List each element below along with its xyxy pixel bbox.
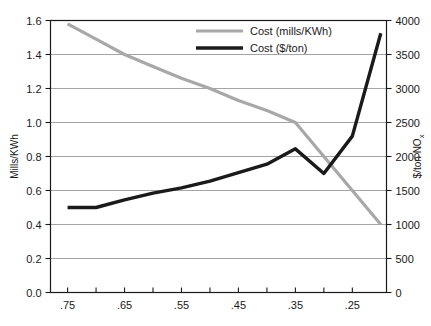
y-axis-tick-label: 1.4 — [26, 49, 41, 61]
y2-axis-tick-label: 1500 — [396, 185, 420, 197]
y-axis-tick-label: 1.0 — [26, 117, 41, 129]
chart-container: 0.00.20.40.60.81.01.21.41.60500100015002… — [0, 0, 431, 326]
series-line-1 — [68, 24, 381, 225]
series-line-2 — [68, 33, 381, 207]
y2-axis-tick-label: 1000 — [396, 219, 420, 231]
legend-label-1: Cost (mills/KWh) — [250, 25, 332, 37]
x-axis-tick-label: .55 — [174, 299, 189, 311]
y-axis-tick-label: 0.2 — [26, 253, 41, 265]
line-chart: 0.00.20.40.60.81.01.21.41.60500100015002… — [0, 0, 431, 326]
x-axis-tick-label: .45 — [231, 299, 246, 311]
x-axis-tick-label: .75 — [60, 299, 75, 311]
y-axis-tick-label: 0.4 — [26, 219, 41, 231]
y-axis-tick-label: 0.8 — [26, 151, 41, 163]
x-axis-tick-label: .25 — [345, 299, 360, 311]
y2-axis-tick-label: 3000 — [396, 83, 420, 95]
y2-axis-tick-label: 3500 — [396, 49, 420, 61]
y2-axis-tick-label: 2500 — [396, 117, 420, 129]
legend-label-2: Cost ($/ton) — [250, 42, 307, 54]
y2-axis-title: $/ton NOx — [412, 134, 426, 178]
y-axis-tick-label: 0.0 — [26, 287, 41, 299]
y-axis-tick-label: 1.2 — [26, 83, 41, 95]
y-axis-tick-label: 1.6 — [26, 15, 41, 27]
x-axis-tick-label: .65 — [117, 299, 132, 311]
y-axis-title: Mills/KWh — [9, 134, 20, 178]
x-axis-tick-label: .35 — [288, 299, 303, 311]
y2-axis-tick-label: 0 — [396, 287, 402, 299]
y2-axis-tick-label: 4000 — [396, 15, 420, 27]
y-axis-tick-label: 0.6 — [26, 185, 41, 197]
y2-axis-tick-label: 500 — [396, 253, 414, 265]
